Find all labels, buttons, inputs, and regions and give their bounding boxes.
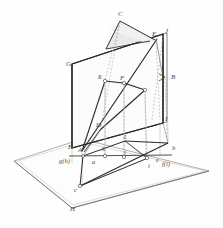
label-J: J xyxy=(165,28,168,35)
vertex-k-lower xyxy=(103,154,106,157)
label-e: e xyxy=(156,157,159,164)
label-gh: g(h) xyxy=(59,158,70,165)
label-i: i xyxy=(148,163,150,170)
vertex-i-lower xyxy=(145,156,148,159)
vertex-K xyxy=(103,79,106,82)
label-k: k xyxy=(102,146,105,153)
label-K: K xyxy=(98,74,102,80)
label-l: l xyxy=(124,150,126,157)
label-F: F xyxy=(120,75,124,82)
vertex-a-lower xyxy=(82,155,85,158)
label-A: A xyxy=(78,147,82,154)
label-E: E xyxy=(152,31,156,38)
label-D: D xyxy=(96,122,101,129)
label-H-plane: H xyxy=(68,144,73,151)
label-c: c xyxy=(74,187,77,194)
label-C: C xyxy=(118,11,123,18)
label-a: a xyxy=(92,159,95,166)
label-L: L xyxy=(124,134,127,140)
label-fl: f(l) xyxy=(162,161,170,168)
vertical-plane-group xyxy=(72,33,167,148)
label-H-ground: H xyxy=(70,206,75,213)
projection-figure: C E J G B K F I D H A L H g(h) a k l i e… xyxy=(0,0,223,228)
drawing-canvas xyxy=(0,0,223,228)
vertex-M xyxy=(143,88,146,91)
label-I: I xyxy=(165,116,167,123)
vertex-c-lower xyxy=(78,184,81,187)
label-B: B xyxy=(171,74,175,81)
label-G: G xyxy=(66,61,71,68)
proj-edge-b-to-plane xyxy=(163,123,168,143)
label-b: b xyxy=(172,145,175,152)
